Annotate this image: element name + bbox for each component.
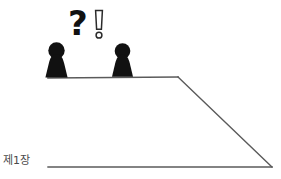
- question-mark-icon: ?: [68, 6, 88, 40]
- cliff-slope-line: [178, 77, 272, 167]
- scene-vector-art: [0, 0, 281, 179]
- illustration-canvas: ? 제1장: [0, 0, 281, 179]
- chapter-label: 제1장: [3, 154, 30, 168]
- figure-left-silhouette: [45, 42, 67, 77]
- figure-right-silhouette: [112, 43, 133, 77]
- exclamation-mark-icon: [96, 11, 103, 39]
